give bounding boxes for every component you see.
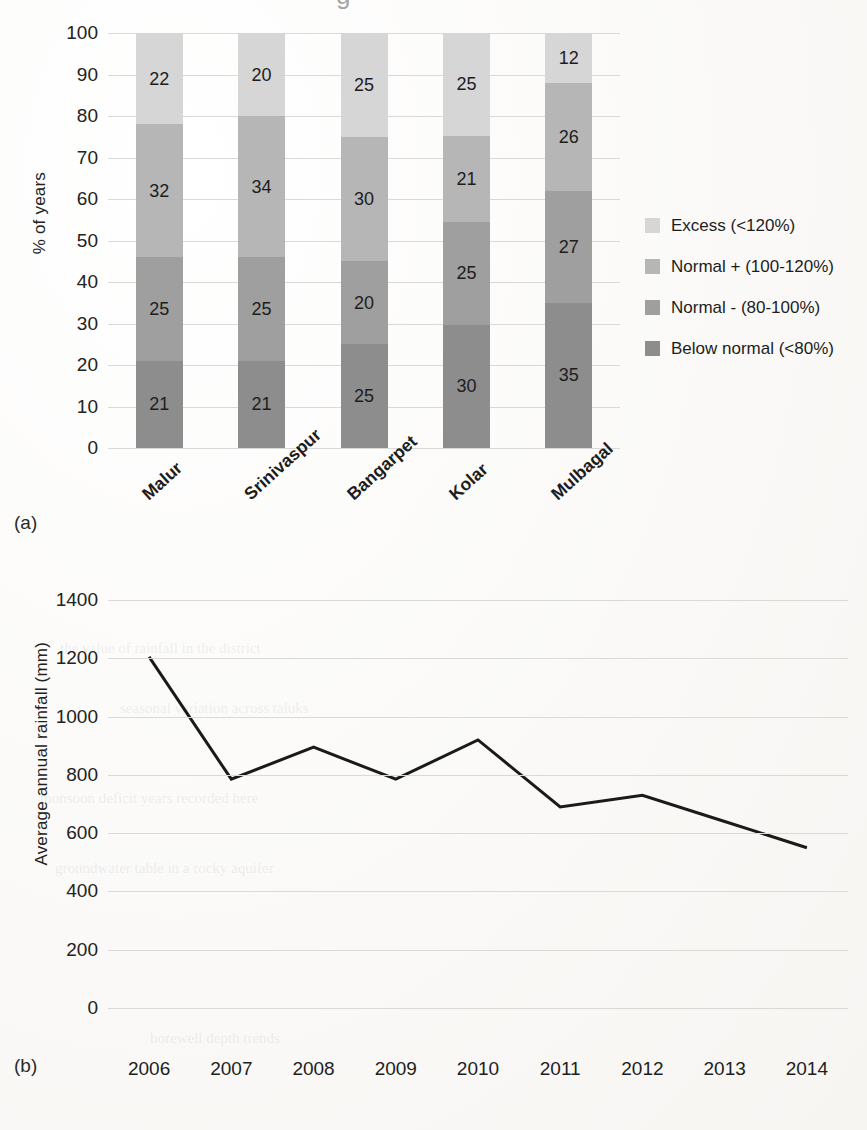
bar-segment[interactable]: 35 bbox=[545, 303, 592, 448]
bar-segment[interactable]: 25 bbox=[443, 222, 490, 325]
bar-chart-y-tick-label: 30 bbox=[77, 313, 98, 335]
line-chart-y-tick-label: 400 bbox=[66, 880, 98, 902]
legend-item[interactable]: Normal + (100-120%) bbox=[645, 246, 860, 287]
bar-segment[interactable]: 32 bbox=[136, 124, 183, 257]
line-chart-gridline bbox=[108, 600, 848, 601]
bar-segment[interactable]: 21 bbox=[238, 361, 285, 448]
bar-chart-category-label: Malur bbox=[138, 458, 187, 505]
bar-segment-value-label: 25 bbox=[456, 264, 476, 282]
bar-segment[interactable]: 34 bbox=[238, 116, 285, 257]
bar-segment[interactable]: 27 bbox=[545, 191, 592, 303]
line-chart-gridline bbox=[108, 717, 848, 718]
chart-legend: Excess (<120%)Normal + (100-120%)Normal … bbox=[645, 205, 860, 369]
legend-color-swatch bbox=[645, 218, 660, 233]
bar-chart-y-tick-label: 70 bbox=[77, 147, 98, 169]
bar-chart-gridline bbox=[108, 448, 620, 449]
bar-segment-value-label: 27 bbox=[559, 238, 579, 256]
bar-segment-value-label: 25 bbox=[354, 387, 374, 405]
legend-item[interactable]: Normal - (80-100%) bbox=[645, 287, 860, 328]
bar-segment-value-label: 22 bbox=[149, 70, 169, 88]
bar-segment-value-label: 25 bbox=[149, 300, 169, 318]
bar-segment[interactable]: 12 bbox=[545, 33, 592, 83]
stacked-bar-column[interactable]: 35272612 bbox=[545, 33, 592, 448]
legend-item[interactable]: Excess (<120%) bbox=[645, 205, 860, 246]
line-chart-x-tick-label: 2007 bbox=[210, 1058, 252, 1080]
bar-segment-value-label: 34 bbox=[252, 178, 272, 196]
bar-chart-y-tick-label: 0 bbox=[87, 437, 98, 459]
bar-segment-value-label: 21 bbox=[149, 395, 169, 413]
line-chart-gridline bbox=[108, 1008, 848, 1009]
line-chart-y-tick-group: 0200400600800100012001400 bbox=[40, 600, 98, 1008]
bar-chart-y-tick-label: 60 bbox=[77, 188, 98, 210]
bar-chart-category-label: Kolar bbox=[445, 459, 492, 505]
bar-segment-value-label: 30 bbox=[456, 377, 476, 395]
legend-item-label: Below normal (<80%) bbox=[671, 339, 834, 359]
line-chart-x-tick-label: 2011 bbox=[540, 1058, 581, 1080]
legend-item-label: Excess (<120%) bbox=[671, 216, 795, 236]
bar-segment[interactable]: 22 bbox=[136, 33, 183, 124]
bar-segment[interactable]: 30 bbox=[341, 137, 388, 262]
stacked-bar-column[interactable]: 21253222 bbox=[136, 33, 183, 448]
legend-item[interactable]: Below normal (<80%) bbox=[645, 328, 860, 369]
legend-item-label: Normal + (100-120%) bbox=[671, 257, 834, 277]
panel-a-tag: (a) bbox=[14, 512, 37, 534]
bar-segment-value-label: 32 bbox=[149, 182, 169, 200]
stacked-bar-chart-panel: (a) % of years 0102030405060708090100 21… bbox=[0, 0, 867, 560]
bar-segment-value-label: 30 bbox=[354, 190, 374, 208]
bar-segment[interactable]: 30 bbox=[443, 325, 490, 448]
line-chart-y-tick-label: 1000 bbox=[56, 706, 98, 728]
stacked-bar-column[interactable]: 21253420 bbox=[238, 33, 285, 448]
bar-chart-y-tick-group: 0102030405060708090100 bbox=[40, 33, 98, 448]
bar-segment[interactable]: 26 bbox=[545, 83, 592, 191]
bar-segment[interactable]: 21 bbox=[136, 361, 183, 448]
line-chart-y-tick-label: 1200 bbox=[56, 647, 98, 669]
panel-b-tag: (b) bbox=[14, 1055, 37, 1077]
stacked-bar-column[interactable]: 30252125 bbox=[443, 33, 490, 448]
bar-chart-y-tick-label: 90 bbox=[77, 64, 98, 86]
rainfall-line-series bbox=[149, 657, 807, 848]
line-chart-x-tick-label: 2014 bbox=[786, 1058, 828, 1080]
line-chart-x-tick-label: 2009 bbox=[375, 1058, 417, 1080]
bar-segment[interactable]: 25 bbox=[238, 257, 285, 361]
line-chart-y-tick-label: 0 bbox=[87, 997, 98, 1019]
stacked-bar-column[interactable]: 25203025 bbox=[341, 33, 388, 448]
line-chart-y-tick-label: 600 bbox=[66, 822, 98, 844]
legend-item-label: Normal - (80-100%) bbox=[671, 298, 820, 318]
bar-segment-value-label: 21 bbox=[456, 170, 476, 188]
bar-chart-y-tick-label: 20 bbox=[77, 354, 98, 376]
line-chart-x-tick-label: 2006 bbox=[128, 1058, 170, 1080]
line-chart-y-tick-label: 200 bbox=[66, 939, 98, 961]
bar-segment[interactable]: 20 bbox=[238, 33, 285, 116]
bar-segment-value-label: 21 bbox=[252, 395, 272, 413]
bar-segment-value-label: 20 bbox=[354, 294, 374, 312]
bar-chart-y-tick-label: 10 bbox=[77, 396, 98, 418]
bar-chart-y-tick-label: 50 bbox=[77, 230, 98, 252]
bar-segment-value-label: 35 bbox=[559, 366, 579, 384]
bar-segment[interactable]: 20 bbox=[341, 261, 388, 344]
line-chart-panel: (b) Average annual rainfall (mm) 0200400… bbox=[0, 560, 867, 1130]
bar-segment-value-label: 25 bbox=[456, 75, 476, 93]
bar-segment[interactable]: 25 bbox=[341, 33, 388, 137]
bar-segment[interactable]: 25 bbox=[341, 344, 388, 448]
bar-chart-plot-area: 21253222Malur21253420Srinivaspur25203025… bbox=[108, 33, 620, 448]
bar-chart-y-tick-label: 100 bbox=[66, 22, 98, 44]
bar-segment-value-label: 25 bbox=[354, 76, 374, 94]
line-chart-x-tick-label: 2008 bbox=[292, 1058, 334, 1080]
line-chart-x-tick-label: 2010 bbox=[457, 1058, 499, 1080]
legend-color-swatch bbox=[645, 300, 660, 315]
line-chart-gridline bbox=[108, 950, 848, 951]
line-chart-plot-area: 200620072008200920102011201220132014 bbox=[108, 600, 848, 1008]
line-chart-svg bbox=[108, 600, 848, 1008]
bar-segment-value-label: 12 bbox=[559, 49, 579, 67]
bar-segment-value-label: 20 bbox=[252, 66, 272, 84]
bar-segment-value-label: 26 bbox=[559, 128, 579, 146]
bar-segment[interactable]: 25 bbox=[136, 257, 183, 361]
line-chart-gridline bbox=[108, 658, 848, 659]
line-chart-x-tick-label: 2012 bbox=[621, 1058, 663, 1080]
bar-segment[interactable]: 25 bbox=[443, 33, 490, 136]
legend-color-swatch bbox=[645, 341, 660, 356]
bar-segment[interactable]: 21 bbox=[443, 136, 490, 222]
line-chart-y-tick-label: 1400 bbox=[56, 589, 98, 611]
bar-chart-y-tick-label: 80 bbox=[77, 105, 98, 127]
legend-color-swatch bbox=[645, 259, 660, 274]
